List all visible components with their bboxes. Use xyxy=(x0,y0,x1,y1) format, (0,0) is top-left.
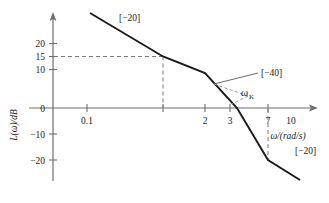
axes-group xyxy=(29,12,318,181)
y-axis-title: L(ω)/dB xyxy=(9,109,20,142)
x-tick-label-10: 10 xyxy=(286,116,296,126)
x-tick-label-0p1: 0.1 xyxy=(81,116,93,126)
y-tick-labels-group: 20 15 10 0 −10 −20 xyxy=(30,39,45,166)
y-tick-label-20: 20 xyxy=(36,39,46,49)
y-tick-label-10: 10 xyxy=(36,65,46,75)
omega-k-symbol: ω xyxy=(241,87,248,98)
x-tick-label-3: 3 xyxy=(228,116,233,126)
omega-k-subscript: K xyxy=(249,93,254,101)
slope-label-middle: [−40] xyxy=(261,68,282,78)
y-tick-label-minus20: −20 xyxy=(30,156,45,166)
x-tick-label-2: 2 xyxy=(203,116,208,126)
bode-plot-canvas: 20 15 10 0 −10 −20 L(ω)/dB 0.1 2 3 7 10 … xyxy=(0,0,329,203)
y-tick-label-0: 0 xyxy=(40,104,45,114)
y-tick-label-15: 15 xyxy=(36,52,46,62)
bode-plot-figure: 20 15 10 0 −10 −20 L(ω)/dB 0.1 2 3 7 10 … xyxy=(0,0,329,203)
slope-label-bottom: [−20] xyxy=(295,146,316,156)
leader-slope-minus40 xyxy=(214,73,258,84)
x-axis-title: ω/(rad/s) xyxy=(270,131,305,142)
y-tick-label-minus10: −10 xyxy=(30,130,45,140)
slope-label-top: [−20] xyxy=(119,13,140,23)
x-tick-labels-group: 0.1 2 3 7 10 xyxy=(81,116,296,126)
